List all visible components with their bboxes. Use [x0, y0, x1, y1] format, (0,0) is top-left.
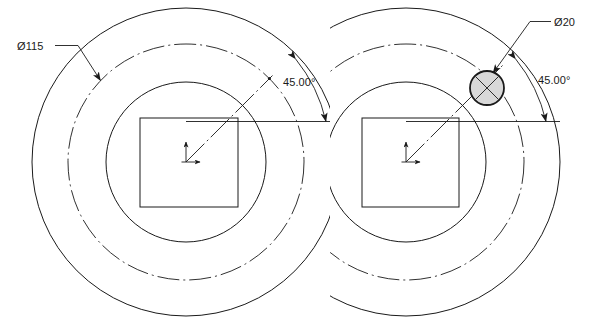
left-45deg-centerline — [186, 76, 273, 163]
right-center-square — [362, 118, 459, 207]
technical-drawing-canvas: Ø115 45.00° — [0, 0, 594, 325]
left-diameter-leader-arrow — [78, 46, 101, 81]
right-diameter-leader-arrow — [493, 22, 530, 74]
right-angle-label: 45.00° — [538, 74, 571, 86]
left-angle-label: 45.00° — [283, 76, 316, 88]
right-angle-arc — [516, 59, 547, 122]
left-diameter-label: Ø115 — [17, 40, 44, 52]
right-view: Ø20 45.00° — [252, 8, 575, 316]
left-center-square — [140, 118, 238, 207]
left-angle-arc — [296, 59, 327, 122]
left-view: Ø115 45.00° — [17, 8, 340, 316]
right-diameter-label: Ø20 — [554, 16, 575, 28]
cad-drawing-svg: Ø115 45.00° — [0, 0, 594, 325]
left-bolt-point — [268, 77, 271, 80]
